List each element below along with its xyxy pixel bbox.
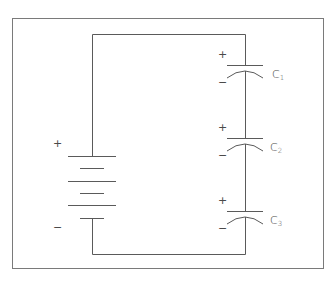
c3-subscript: 3 [278,220,282,228]
battery-symbol [68,157,116,219]
battery-negative-label: − [53,222,62,233]
c1-subscript: 1 [280,74,284,82]
c2-label: C2 [270,142,282,157]
c1-name: C [272,68,280,81]
c3-positive-label: + [218,195,227,206]
battery-positive-label: + [53,138,62,149]
c2-subscript: 2 [278,147,282,155]
c3-label: C3 [270,215,282,230]
c1-label: C1 [272,69,284,84]
c2-positive-label: + [218,122,227,133]
c3-negative-label: − [218,223,227,234]
c2-name: C [270,141,278,154]
c3-name: C [270,214,278,227]
circuit-canvas [0,0,334,281]
c2-negative-label: − [218,150,227,161]
c1-positive-label: + [218,49,227,60]
c1-negative-label: − [218,77,227,88]
